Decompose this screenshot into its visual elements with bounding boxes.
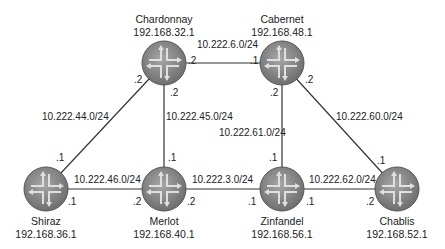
router-name: Shiraz bbox=[31, 215, 61, 227]
interface-label: .1 bbox=[56, 152, 65, 163]
interface-label: .2 bbox=[170, 87, 179, 98]
router-icon bbox=[142, 41, 186, 85]
interface-label: .1 bbox=[168, 152, 177, 163]
router-zinfandel bbox=[260, 167, 304, 211]
router-name: Cabernet bbox=[260, 13, 303, 25]
interface-label: .2 bbox=[270, 87, 279, 98]
interface-label: .1 bbox=[68, 196, 77, 207]
interface-label: .1 bbox=[269, 152, 278, 163]
router-ip: 192.168.32.1 bbox=[133, 26, 194, 38]
router-name: Chablis bbox=[379, 215, 414, 227]
router-icon bbox=[24, 167, 68, 211]
links bbox=[46, 63, 397, 189]
network-diagram: Chardonnay 192.168.32.1 Cabernet 192.168… bbox=[0, 0, 445, 249]
router-chablis bbox=[375, 167, 419, 211]
interface-label: .1 bbox=[306, 196, 315, 207]
subnet-label: 10.222.62.0/24 bbox=[309, 174, 376, 185]
subnet-label: 10.222.3.0/24 bbox=[192, 174, 254, 185]
interface-label: .1 bbox=[250, 55, 259, 66]
router-ip: 192.168.40.1 bbox=[133, 228, 194, 240]
subnet-label: 10.222.46.0/24 bbox=[74, 174, 141, 185]
interface-label: .2 bbox=[305, 74, 314, 85]
router-chardonnay bbox=[142, 41, 186, 85]
interface-label: .2 bbox=[133, 196, 142, 207]
link-chardonnay-shiraz bbox=[46, 63, 164, 189]
interface-label: .1 bbox=[248, 196, 257, 207]
subnet-label: 10.222.6.0/24 bbox=[197, 39, 259, 50]
interface-label: .2 bbox=[188, 55, 197, 66]
router-name: Merlot bbox=[149, 215, 178, 227]
link-cabernet-chablis bbox=[282, 63, 397, 189]
router-ip: 192.168.36.1 bbox=[15, 228, 76, 240]
router-icon bbox=[142, 167, 186, 211]
router-icon bbox=[260, 167, 304, 211]
router-ip: 192.168.56.1 bbox=[251, 228, 312, 240]
router-cabernet bbox=[260, 41, 304, 85]
subnet-label: 10.222.60.0/24 bbox=[336, 111, 403, 122]
router-merlot bbox=[142, 167, 186, 211]
router-icon bbox=[375, 167, 419, 211]
interface-label: .2 bbox=[366, 196, 375, 207]
router-icon bbox=[260, 41, 304, 85]
interface-label: .1 bbox=[377, 155, 386, 166]
interface-label: .2 bbox=[134, 74, 143, 85]
interface-label: .2 bbox=[187, 196, 196, 207]
router-ip: 192.168.52.1 bbox=[366, 228, 427, 240]
subnet-label: 10.222.45.0/24 bbox=[166, 111, 233, 122]
subnet-label: 10.222.61.0/24 bbox=[219, 127, 286, 138]
subnet-label: 10.222.44.0/24 bbox=[42, 111, 109, 122]
router-name: Chardonnay bbox=[135, 13, 193, 25]
router-ip: 192.168.48.1 bbox=[251, 26, 312, 38]
router-name: Zinfandel bbox=[260, 215, 303, 227]
router-shiraz bbox=[24, 167, 68, 211]
